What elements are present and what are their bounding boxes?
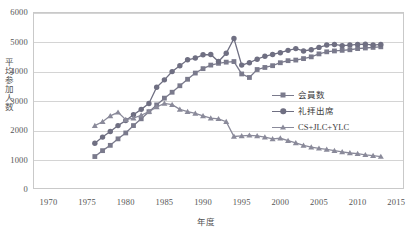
data-point	[185, 57, 190, 62]
data-point	[232, 59, 237, 64]
data-point	[116, 136, 121, 141]
data-point	[224, 51, 229, 56]
x-axis-title: 年度	[0, 215, 412, 227]
x-tick-label: 1990	[183, 198, 223, 207]
data-point	[262, 65, 267, 70]
data-point	[177, 83, 182, 88]
x-tick-label: 1980	[106, 198, 146, 207]
data-point	[278, 50, 283, 55]
data-point	[355, 42, 360, 47]
data-point	[285, 48, 290, 53]
data-point	[370, 42, 375, 47]
data-point	[170, 90, 175, 95]
data-point	[139, 107, 144, 112]
x-tick-label: 1975	[67, 198, 107, 207]
data-point	[108, 129, 113, 134]
data-point	[201, 66, 206, 71]
data-point	[108, 143, 113, 148]
data-point	[224, 60, 229, 65]
data-point	[340, 48, 345, 53]
data-point	[254, 57, 259, 62]
data-point	[100, 148, 105, 153]
chart-legend: 会員数礼拝出席CS+JLC+YLC	[272, 90, 349, 132]
legend-label: 礼拝出席	[298, 107, 334, 116]
data-point	[177, 106, 183, 111]
data-point	[309, 54, 314, 59]
legend-label: CS+JLC+YLC	[298, 123, 349, 132]
data-point	[270, 63, 275, 68]
data-point	[200, 52, 205, 57]
data-point	[115, 123, 120, 128]
triangle-marker-icon	[272, 123, 294, 132]
data-point	[293, 46, 298, 51]
legend-item[interactable]: 会員数	[272, 90, 349, 100]
data-point	[332, 42, 337, 47]
data-point	[239, 62, 244, 67]
data-point	[100, 134, 105, 139]
data-point	[247, 60, 252, 65]
legend-label: 会員数	[298, 91, 325, 100]
x-tick-label: 1985	[144, 198, 184, 207]
data-point	[309, 47, 314, 52]
x-tick-label: 1970	[28, 198, 68, 207]
data-point	[324, 42, 329, 47]
data-point	[324, 49, 329, 54]
x-tick-label: 1995	[222, 198, 262, 207]
x-tick-label: 2005	[299, 198, 339, 207]
data-point	[239, 72, 244, 77]
data-point	[278, 60, 283, 65]
data-point	[317, 51, 322, 56]
data-point	[255, 67, 260, 72]
data-point	[146, 101, 151, 106]
data-point	[332, 49, 337, 54]
data-point	[131, 123, 136, 128]
legend-item[interactable]: 礼拝出席	[272, 106, 349, 116]
data-point	[92, 154, 97, 159]
data-point	[262, 54, 267, 59]
data-point	[348, 47, 353, 52]
data-point	[162, 96, 167, 101]
data-point	[301, 48, 306, 53]
data-point	[185, 77, 190, 82]
data-point	[286, 58, 291, 63]
data-point	[123, 131, 128, 136]
data-point	[193, 71, 198, 76]
data-point	[162, 77, 167, 82]
data-point	[115, 109, 121, 114]
data-point	[339, 43, 344, 48]
data-point	[216, 59, 221, 64]
data-point	[208, 63, 213, 68]
data-point	[270, 52, 275, 57]
data-point	[363, 41, 368, 46]
data-point	[193, 55, 198, 60]
data-point	[301, 56, 306, 61]
data-point	[293, 58, 298, 63]
data-point	[92, 141, 97, 146]
data-point	[177, 63, 182, 68]
data-point	[208, 52, 213, 57]
square-marker-icon	[272, 91, 294, 100]
data-point	[247, 75, 252, 80]
circle-marker-icon	[272, 107, 294, 116]
x-tick-label: 2000	[260, 198, 300, 207]
x-tick-label: 2015	[376, 198, 412, 207]
data-point	[316, 45, 321, 50]
chart-container: 平均参加人数 0100020003000400050006000 1970197…	[0, 0, 412, 239]
legend-item[interactable]: CS+JLC+YLC	[272, 122, 349, 132]
data-point	[231, 36, 236, 41]
data-point	[92, 123, 98, 128]
x-tick-label: 2010	[338, 198, 378, 207]
data-point	[347, 42, 352, 47]
data-point	[154, 85, 159, 90]
data-point	[169, 69, 174, 74]
data-point	[378, 42, 383, 47]
